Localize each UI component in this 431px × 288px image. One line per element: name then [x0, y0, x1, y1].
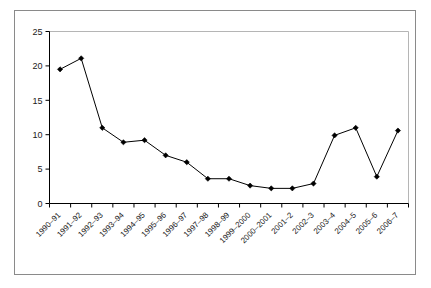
x-tick-label: 2004–5: [333, 210, 359, 236]
x-tick-label: 2006–7: [375, 210, 401, 236]
x-tick-label: 2001–2: [270, 210, 296, 236]
data-point-marker: [57, 67, 62, 72]
data-series-line: [60, 58, 398, 188]
x-tick-label: 2005–6: [354, 210, 380, 236]
data-point-marker: [332, 133, 337, 138]
line-chart: 0510152025 1990–911991–921992–931993–941…: [0, 0, 431, 288]
y-tick-label: 0: [37, 199, 42, 209]
data-point-marker: [269, 186, 274, 191]
y-axis-tick-labels: 0510152025: [32, 27, 42, 209]
data-point-marker: [248, 183, 253, 188]
data-point-marker: [226, 176, 231, 181]
x-axis: [50, 204, 409, 208]
y-tick-label: 25: [32, 27, 42, 37]
y-tick-label: 10: [32, 130, 42, 140]
data-point-marker: [374, 174, 379, 179]
data-point-marker: [311, 181, 316, 186]
data-point-marker: [353, 125, 358, 130]
data-point-markers: [57, 56, 400, 191]
y-axis: [46, 32, 50, 204]
data-point-marker: [79, 56, 84, 61]
y-tick-label: 5: [37, 164, 42, 174]
x-tick-label: 2002–3: [291, 210, 317, 236]
x-axis-tick-labels: 1990–911991–921992–931993–941994–951995–…: [34, 210, 401, 245]
y-tick-label: 15: [32, 96, 42, 106]
y-tick-label: 20: [32, 61, 42, 71]
chart-svg: 0510152025 1990–911991–921992–931993–941…: [0, 0, 431, 288]
data-point-marker: [395, 128, 400, 133]
x-tick-label: 2003–4: [312, 210, 338, 236]
data-point-marker: [290, 186, 295, 191]
